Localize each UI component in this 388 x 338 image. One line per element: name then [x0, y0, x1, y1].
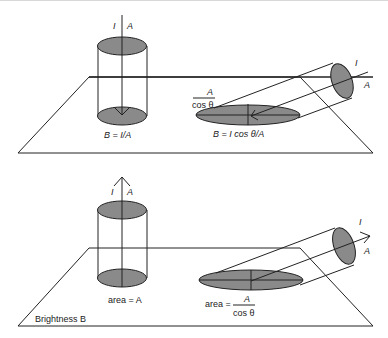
bottom-plane-label: Brightness B: [35, 314, 86, 324]
top-vertical-equation: B = I/A: [104, 130, 131, 140]
top-panel: [18, 15, 373, 153]
bottom-vertical-I-label: I: [111, 187, 114, 197]
bottom-tilted-area-numerator: A: [243, 294, 250, 304]
top-vertical-cylinder: [98, 15, 148, 125]
bottom-tilted-A-label: A: [363, 246, 370, 256]
bottom-tilted-area-denominator: cos θ: [233, 308, 255, 318]
top-tilted-beam: [196, 61, 368, 125]
bottom-vertical-area-label: area = A: [108, 295, 142, 305]
top-tilted-A-label: A: [363, 80, 370, 90]
bottom-panel: [18, 177, 373, 326]
top-tilted-area-denominator: cos θ: [192, 100, 214, 110]
bottom-vertical-A-label: A: [126, 187, 133, 197]
bottom-vertical-cylinder: [98, 177, 148, 287]
bottom-tilted-area-prefix: area =: [205, 299, 231, 309]
top-tilted-I-label: I: [355, 58, 358, 68]
top-tilted-area-numerator: A: [206, 87, 213, 97]
diagram-canvas: I A B = I/A A cos θ B = I cos θ/A I A I …: [0, 0, 388, 338]
top-vertical-I-label: I: [113, 21, 116, 31]
top-tilted-equation: B = I cos θ/A: [213, 129, 264, 139]
top-vertical-A-label: A: [126, 21, 133, 31]
bottom-tilted-beam: [199, 225, 370, 290]
bottom-tilted-I-label: I: [359, 217, 362, 227]
